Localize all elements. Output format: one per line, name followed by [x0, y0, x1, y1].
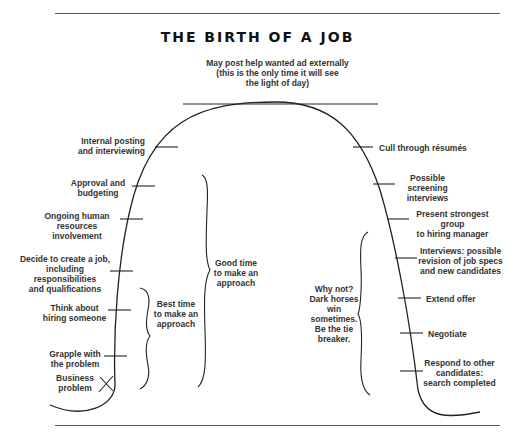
step-interviews-revision: Interviews: possible revision of job spe…: [418, 246, 503, 276]
step-line: budgeting: [68, 188, 128, 198]
best-time-label: Best time to make an approach: [150, 299, 202, 329]
step-line: Approval and: [68, 178, 128, 188]
step-line: resources involvement: [32, 221, 122, 241]
brace-line: Why not?: [308, 284, 360, 294]
step-line: Internal posting: [40, 136, 145, 146]
brace-line: Dark horses: [308, 294, 360, 304]
brace-line: Good time: [208, 258, 264, 268]
brace-line: approach: [150, 319, 202, 329]
step-grapple: Grapple with the problem: [45, 349, 105, 369]
step-hr-involvement: Ongoing human resources involvement: [32, 211, 122, 241]
brace-line: Be the tie: [308, 324, 360, 334]
step-present-group: Present strongest group to hiring manage…: [405, 209, 500, 239]
step-line: Grapple with: [45, 349, 105, 359]
step-screening-interviews: Possible screening interviews: [390, 173, 465, 203]
step-respond-candidates: Respond to other candidates: search comp…: [422, 358, 497, 388]
step-cull-resumes: Cull through résumés: [379, 143, 499, 153]
brace-line: breaker.: [308, 334, 360, 344]
why-not-label: Why not? Dark horses win sometimes. Be t…: [308, 284, 360, 344]
brace-line: to make an: [150, 309, 202, 319]
step-line: the problem: [45, 359, 105, 369]
brace-line: win: [308, 304, 360, 314]
top-label-line: (this is the only time it will see: [180, 68, 375, 78]
step-line: Respond to other: [422, 358, 497, 368]
brace-line: to make an: [208, 268, 264, 278]
step-extend-offer: Extend offer: [426, 294, 496, 304]
step-line: Present strongest group: [405, 209, 500, 229]
step-decide-create-job: Decide to create a job, including respon…: [15, 254, 115, 294]
step-line: Cull through résumés: [379, 143, 499, 153]
step-line: problem: [50, 383, 100, 393]
step-line: Negotiate: [428, 329, 488, 339]
step-line: search completed: [422, 378, 497, 388]
step-line: and qualifications: [15, 284, 115, 294]
step-line: Possible screening: [390, 173, 465, 193]
step-line: Think about: [42, 303, 107, 313]
step-line: Decide to create a job,: [15, 254, 115, 264]
step-line: and new candidates: [418, 266, 503, 276]
top-label-line: May post help wanted ad externally: [180, 58, 375, 68]
step-line: Business: [50, 373, 100, 383]
step-line: Extend offer: [426, 294, 496, 304]
brace-line: approach: [208, 278, 264, 288]
step-line: candidates:: [422, 368, 497, 378]
step-think-hiring: Think about hiring someone: [42, 303, 107, 323]
step-line: including responsibilities: [15, 264, 115, 284]
step-line: and interviewing: [40, 146, 145, 156]
step-line: Interviews: possible: [418, 246, 503, 256]
brace-line: sometimes.: [308, 314, 360, 324]
step-negotiate: Negotiate: [428, 329, 488, 339]
step-approval: Approval and budgeting: [68, 178, 128, 198]
step-line: hiring someone: [42, 313, 107, 323]
step-line: revision of job specs: [418, 256, 503, 266]
step-line: Ongoing human: [32, 211, 122, 221]
step-internal-posting: Internal posting and interviewing: [40, 136, 145, 156]
top-label: May post help wanted ad externally (this…: [180, 58, 375, 88]
step-business-problem: Business problem: [50, 373, 100, 393]
step-line: interviews: [390, 193, 465, 203]
brace-line: Best time: [150, 299, 202, 309]
step-line: to hiring manager: [405, 229, 500, 239]
top-label-line: the light of day): [180, 78, 375, 88]
good-time-label: Good time to make an approach: [208, 258, 264, 288]
